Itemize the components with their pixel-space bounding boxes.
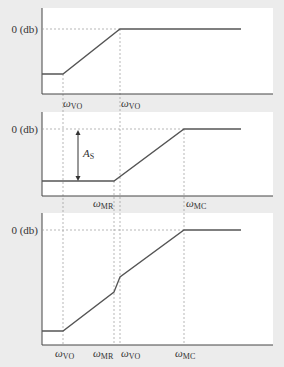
- zero-db-label: 0 (db): [11, 224, 38, 237]
- x-label-omega-vo: ωVO: [63, 97, 83, 111]
- panel-top-bg: [42, 8, 273, 94]
- bode-asymptote-diagram: 0 (db) ωVO ωVO AS 0 (db) ωMR ωMC 0 (db) …: [0, 0, 284, 367]
- zero-db-label: 0 (db): [11, 23, 38, 36]
- x-label-omega-vo: ωVO: [121, 347, 141, 361]
- x-label-omega-mr: ωMR: [93, 197, 114, 211]
- x-label-omega-mr: ωMR: [93, 347, 114, 361]
- x-label-omega-mc: ωMC: [175, 347, 195, 361]
- x-label-omega-mc: ωMC: [186, 197, 206, 211]
- panel-bottom-bg: [42, 213, 273, 345]
- x-label-omega-vo: ωVO: [55, 347, 75, 361]
- zero-db-label: 0 (db): [11, 123, 38, 136]
- panel-middle-bg: [42, 112, 273, 196]
- x-label-omega-vo: ωVO: [121, 97, 141, 111]
